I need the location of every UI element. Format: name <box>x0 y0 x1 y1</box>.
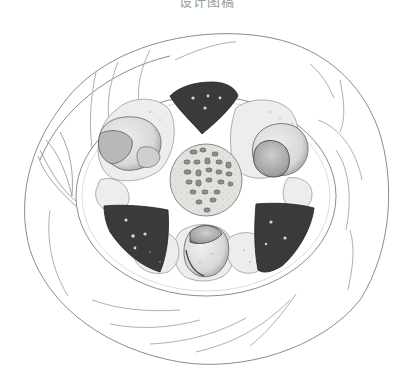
bun-upper-left <box>99 117 162 171</box>
center-dumpling <box>170 144 242 216</box>
leaf-decoration <box>38 132 80 206</box>
bun-upper-right <box>252 124 308 177</box>
plate-illustration <box>0 0 413 383</box>
bun-bottom <box>184 225 229 276</box>
